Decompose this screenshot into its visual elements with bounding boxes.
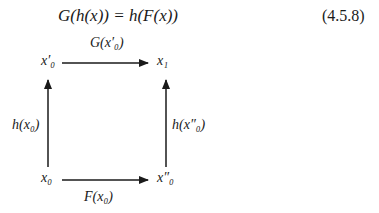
node-bottom-right: x″₀ — [157, 170, 174, 186]
label-top-arrow: G(x′₀) — [90, 35, 124, 51]
commutative-diagram — [0, 0, 379, 213]
node-top-left: x′₀ — [41, 53, 55, 69]
node-top-right: x₁ — [157, 53, 168, 69]
label-bottom-arrow: F(x₀) — [84, 189, 113, 205]
label-left-arrow: h(x₀) — [12, 117, 39, 133]
node-bottom-left: x₀ — [41, 170, 52, 186]
label-right-arrow: h(x″₀) — [172, 117, 205, 133]
